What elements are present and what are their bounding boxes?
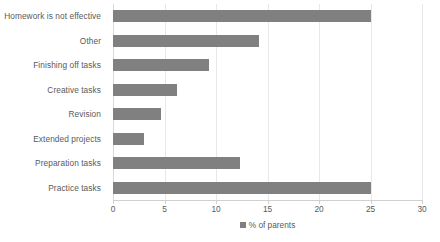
bar[interactable] (113, 133, 144, 145)
bar[interactable] (113, 35, 259, 47)
bar-chart: Homework is not effectiveOtherFinishing … (0, 0, 440, 242)
bar[interactable] (113, 10, 371, 22)
bar[interactable] (113, 84, 177, 96)
category-label: Practice tasks (0, 183, 107, 193)
bar[interactable] (113, 182, 371, 194)
bar-row[interactable] (113, 157, 422, 169)
plot-area (113, 4, 422, 200)
bar[interactable] (113, 59, 209, 71)
x-tick-label: 10 (211, 204, 220, 214)
category-label: Extended projects (0, 134, 107, 144)
x-tick-label: 0 (111, 204, 116, 214)
category-label: Finishing off tasks (0, 60, 107, 70)
chart-legend: % of parents (113, 220, 422, 230)
x-tick-label: 5 (162, 204, 167, 214)
x-tick-label: 20 (314, 204, 323, 214)
bar[interactable] (113, 108, 161, 120)
bars-layer (113, 4, 422, 200)
x-axis-ticks: 051015202530 (113, 200, 422, 214)
x-tick-label: 30 (417, 204, 426, 214)
bar-row[interactable] (113, 133, 422, 145)
bar-row[interactable] (113, 182, 422, 194)
legend-label: % of parents (249, 220, 296, 230)
category-axis-labels: Homework is not effectiveOtherFinishing … (0, 4, 107, 200)
legend-item[interactable]: % of parents (240, 220, 296, 230)
bar-row[interactable] (113, 35, 422, 47)
bar-row[interactable] (113, 10, 422, 22)
x-tick-label: 25 (366, 204, 375, 214)
bar[interactable] (113, 157, 240, 169)
bar-row[interactable] (113, 108, 422, 120)
category-label: Creative tasks (0, 85, 107, 95)
category-label: Homework is not effective (0, 11, 107, 21)
category-label: Preparation tasks (0, 158, 107, 168)
x-tick-label: 15 (263, 204, 272, 214)
category-label: Revision (0, 109, 107, 119)
bar-row[interactable] (113, 59, 422, 71)
gridline (422, 4, 423, 200)
bar-row[interactable] (113, 84, 422, 96)
category-label: Other (0, 36, 107, 46)
legend-swatch-icon (240, 222, 246, 228)
